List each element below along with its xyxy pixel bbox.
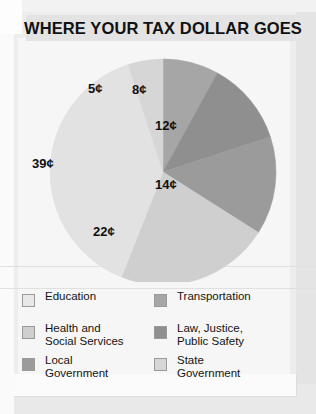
pie-slice-label: 8¢ (132, 82, 146, 97)
legend-item: Education (22, 292, 158, 320)
pie-chart-svg (14, 46, 304, 282)
legend-swatch-icon (22, 326, 35, 339)
chart-legend: EducationHealth and Social ServicesLocal… (22, 292, 298, 390)
legend-item-label: Law, Justice, Public Safety (177, 322, 244, 347)
legend-item-label: State Government (177, 354, 240, 379)
pie-slice-group (50, 59, 276, 282)
pie-slice-label: 39¢ (32, 156, 54, 171)
legend-column-left: EducationHealth and Social ServicesLocal… (22, 292, 158, 388)
legend-item-label: Local Government (45, 354, 108, 379)
pie-slice-label: 22¢ (93, 224, 115, 239)
legend-item: Local Government (22, 356, 158, 384)
legend-item-label: Education (45, 290, 96, 303)
pie-slice-label: 12¢ (155, 118, 177, 133)
legend-item-label: Transportation (177, 290, 251, 303)
pie-slice-label: 5¢ (88, 81, 102, 96)
legend-column-right: TransportationLaw, Justice, Public Safet… (154, 292, 290, 388)
legend-item: Law, Justice, Public Safety (154, 324, 290, 352)
legend-item: State Government (154, 356, 290, 384)
pie-slice-label: 14¢ (155, 177, 177, 192)
legend-item-label: Health and Social Services (45, 322, 124, 347)
page-left-margin (0, 34, 14, 414)
legend-swatch-icon (154, 294, 167, 307)
page-title: WHERE YOUR TAX DOLLAR GOES (26, 16, 300, 40)
legend-swatch-icon (154, 358, 167, 371)
legend-swatch-icon (22, 294, 35, 307)
page-root: WHERE YOUR TAX DOLLAR GOES 8¢12¢14¢22¢39… (0, 0, 316, 414)
scan-line-lower (0, 288, 316, 289)
legend-item: Transportation (154, 292, 290, 320)
page-corner-highlight (0, 0, 22, 34)
pie-chart: 8¢12¢14¢22¢39¢5¢ (14, 46, 304, 282)
legend-swatch-icon (154, 326, 167, 339)
legend-swatch-icon (22, 358, 35, 371)
legend-item: Health and Social Services (22, 324, 158, 352)
